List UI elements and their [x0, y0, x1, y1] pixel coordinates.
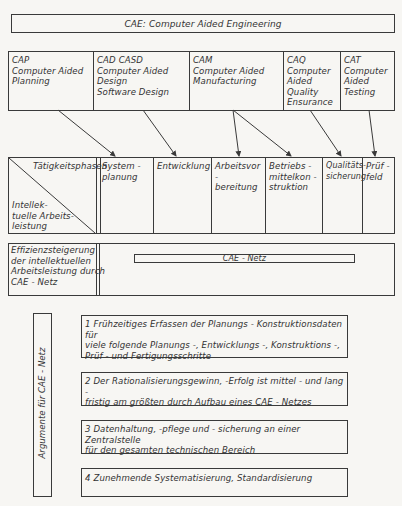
cae-netz-bar: CAE - Netz [134, 254, 355, 263]
arrow-cam-betriebsmittel [233, 110, 291, 156]
phase-label: Entwicklung [157, 161, 209, 172]
arguments-side-box: Argumente für CAE - Netz [33, 313, 52, 497]
argument-text: 1 Frühzeitiges Erfassen der Planungs - K… [85, 319, 347, 361]
phase-qualitaetssicherung: Qualitäts- sicherung [322, 158, 362, 233]
efficiency-box: Effizienzsteigerung der intellektuellen … [8, 243, 395, 296]
header-intellektuelle-arbeitsleistung: Intellek- tuelle Arbeits- leistung [12, 200, 74, 232]
phase-label: Betriebs - mittelkon - struktion [269, 161, 320, 193]
phase-label: Arbeitsvor - bereitung [215, 161, 263, 193]
arrow-cap-systemplanung [58, 110, 115, 156]
arrow-cad-entwicklung [143, 110, 176, 156]
argument-4: 4 Zunehmende Systematisierung, Standardi… [81, 468, 348, 497]
efficiency-label: Effizienzsteigerung der intellektuellen … [11, 245, 105, 287]
argument-1: 1 Frühzeitiges Erfassen der Planungs - K… [81, 315, 348, 358]
arguments-side-label: Argumente für CAE - Netz [37, 313, 47, 493]
cae-netz-bar-label: CAE - Netz [135, 254, 354, 263]
phase-betriebsmittelkonstruktion: Betriebs - mittelkon - struktion [265, 158, 322, 233]
phase-label: System - planung [102, 161, 151, 182]
double-divider [96, 244, 100, 295]
phase-pruefeld: Prüf - feld [362, 158, 396, 233]
phase-label: Qualitäts- sicherung [326, 161, 360, 182]
phase-systemplanung: System - planung [99, 158, 153, 233]
argument-text: 3 Datenhaltung, -pflege und - sicherung … [85, 424, 347, 456]
arrow-caq-qualitaet [310, 110, 341, 156]
phase-entwicklung: Entwicklung [153, 158, 211, 233]
argument-text: 2 Der Rationalisierungsgewinn, -Erfolg i… [85, 376, 347, 408]
argument-3: 3 Datenhaltung, -pflege und - sicherung … [81, 420, 348, 454]
argument-2: 2 Der Rationalisierungsgewinn, -Erfolg i… [81, 372, 348, 406]
arrow-cam-arbeitsvorbereitung [233, 110, 239, 156]
arrow-cat-pruefeld [369, 110, 375, 156]
phase-arbeitsvorbereitung: Arbeitsvor - bereitung [211, 158, 265, 233]
phase-label: Prüf - feld [366, 161, 394, 182]
argument-text: 4 Zunehmende Systematisierung, Standardi… [85, 473, 312, 484]
phases-table: Tätigkeitsphasen Intellek- tuelle Arbeit… [8, 157, 395, 234]
